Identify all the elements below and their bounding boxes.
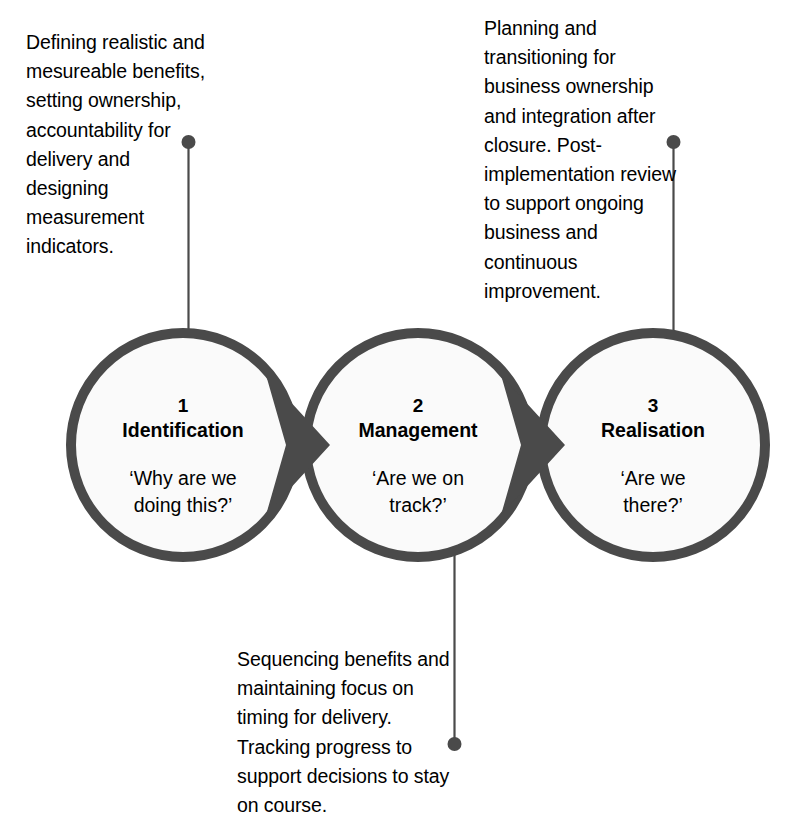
callout-identification: Defining realistic and mesureable benefi… xyxy=(26,28,208,262)
stage-number-realisation: 3 xyxy=(553,394,753,418)
stage-question-management: ‘Are we on track?’ xyxy=(318,465,518,518)
stage-number-management: 2 xyxy=(318,394,518,418)
stage-question-identification: ‘Why are we doing this?’ xyxy=(83,465,283,518)
stage-label-management: 2 Management ‘Are we on track?’ xyxy=(318,394,518,518)
callout-realisation: Planning and transitioning for business … xyxy=(484,14,684,306)
stage-label-realisation: 3 Realisation ‘Are we there?’ xyxy=(553,394,753,518)
stage-number-identification: 1 xyxy=(83,394,283,418)
stage-label-identification: 1 Identification ‘Why are we doing this?… xyxy=(83,394,283,518)
stage-title-management: Management xyxy=(318,418,518,443)
stage-question-realisation: ‘Are we there?’ xyxy=(553,465,753,518)
diagram-canvas: Defining realistic and mesureable benefi… xyxy=(0,0,793,824)
stage-title-identification: Identification xyxy=(83,418,283,443)
callout-management: Sequencing benefits and maintaining focu… xyxy=(237,645,465,820)
stage-title-realisation: Realisation xyxy=(553,418,753,443)
